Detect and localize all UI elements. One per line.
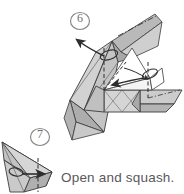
step6-upper-flap <box>112 14 162 62</box>
origami-figure-svg <box>0 0 184 194</box>
step-number-6: 6 <box>70 12 90 24</box>
instruction-caption: Open and squash. <box>61 170 175 185</box>
origami-diagram-page: 6 7 Open and squash. <box>0 0 184 194</box>
step-number-7: 7 <box>30 128 50 140</box>
step6-right-flap <box>132 90 182 112</box>
step7-model <box>2 142 52 192</box>
step6-model <box>64 14 182 140</box>
